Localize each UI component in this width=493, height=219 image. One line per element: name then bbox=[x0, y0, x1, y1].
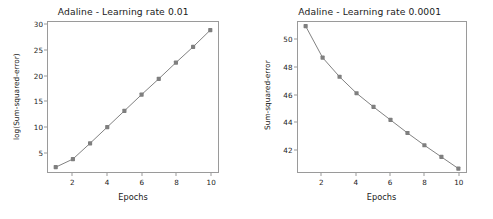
data-point-marker bbox=[140, 93, 144, 97]
x-tick-mark bbox=[211, 173, 212, 176]
x-tick-mark bbox=[321, 173, 322, 176]
x-tick-labels: 246810 bbox=[47, 178, 219, 189]
x-tick-label: 10 bbox=[207, 178, 216, 187]
data-point-marker bbox=[439, 155, 443, 159]
x-tick-labels: 246810 bbox=[297, 178, 467, 189]
data-point-marker bbox=[157, 77, 161, 81]
series-markers bbox=[54, 28, 213, 169]
series-line bbox=[305, 26, 458, 168]
data-point-marker bbox=[88, 141, 92, 145]
y-tick-label: 44 bbox=[283, 118, 292, 127]
y-tick-labels: 51015202530 bbox=[22, 21, 43, 173]
x-tick-label: 4 bbox=[353, 178, 358, 187]
y-tick-label: 15 bbox=[34, 97, 43, 106]
data-point-marker bbox=[354, 91, 358, 95]
y-tick-label: 25 bbox=[34, 45, 43, 54]
x-tick-label: 2 bbox=[70, 178, 75, 187]
plot-area bbox=[47, 21, 219, 173]
chart-title: Adaline - Learning rate 0.01 bbox=[0, 6, 247, 17]
y-tick-label: 20 bbox=[34, 71, 43, 80]
data-point-marker bbox=[208, 28, 212, 32]
x-tick-marks bbox=[297, 173, 467, 177]
y-axis-label: log(Sum-squared-error) bbox=[12, 53, 21, 140]
x-tick-label: 6 bbox=[139, 178, 144, 187]
plot-svg bbox=[298, 22, 466, 172]
data-point-marker bbox=[422, 143, 426, 147]
data-point-marker bbox=[105, 125, 109, 129]
y-tick-label: 46 bbox=[283, 90, 292, 99]
x-tick-label: 4 bbox=[105, 178, 110, 187]
y-tick-label: 48 bbox=[283, 62, 292, 71]
series-markers bbox=[303, 24, 460, 171]
data-point-marker bbox=[388, 118, 392, 122]
y-tick-label: 42 bbox=[283, 146, 292, 155]
data-point-marker bbox=[320, 56, 324, 60]
data-point-marker bbox=[371, 105, 375, 109]
chart-panel-learning-rate-0-01: Adaline - Learning rate 0.01 log(Sum-squ… bbox=[0, 0, 247, 219]
x-tick-mark bbox=[141, 173, 142, 176]
plot-svg bbox=[48, 22, 218, 172]
x-tick-mark bbox=[390, 173, 391, 176]
x-tick-mark bbox=[355, 173, 356, 176]
y-axis-label: Sum-squared-error bbox=[263, 60, 272, 130]
x-axis-label: Epochs bbox=[297, 192, 467, 202]
x-axis-label: Epochs bbox=[47, 192, 219, 202]
y-tick-label: 30 bbox=[34, 20, 43, 29]
data-point-marker bbox=[122, 109, 126, 113]
data-point-marker bbox=[456, 167, 460, 171]
x-tick-label: 10 bbox=[454, 178, 463, 187]
data-point-marker bbox=[191, 45, 195, 49]
x-tick-label: 2 bbox=[319, 178, 324, 187]
y-tick-labels: 4244464850 bbox=[273, 21, 293, 173]
plot-area bbox=[297, 21, 467, 173]
series-line bbox=[56, 30, 211, 167]
chart-title: Adaline - Learning rate 0.0001 bbox=[247, 6, 493, 17]
x-tick-mark bbox=[72, 173, 73, 176]
x-tick-mark bbox=[176, 173, 177, 176]
x-tick-mark bbox=[106, 173, 107, 176]
x-tick-marks bbox=[47, 173, 219, 177]
x-tick-mark bbox=[424, 173, 425, 176]
x-tick-label: 6 bbox=[388, 178, 393, 187]
x-tick-label: 8 bbox=[422, 178, 427, 187]
chart-panel-learning-rate-0-0001: Adaline - Learning rate 0.0001 Sum-squar… bbox=[247, 0, 493, 219]
data-point-marker bbox=[71, 157, 75, 161]
x-tick-mark bbox=[458, 173, 459, 176]
y-tick-label: 10 bbox=[34, 122, 43, 131]
data-point-marker bbox=[303, 24, 307, 28]
y-tick-label: 50 bbox=[283, 35, 292, 44]
data-point-marker bbox=[54, 165, 58, 169]
data-point-marker bbox=[174, 61, 178, 65]
data-point-marker bbox=[405, 131, 409, 135]
figure-container: Adaline - Learning rate 0.01 log(Sum-squ… bbox=[0, 0, 493, 219]
x-tick-label: 8 bbox=[174, 178, 179, 187]
data-point-marker bbox=[337, 75, 341, 79]
